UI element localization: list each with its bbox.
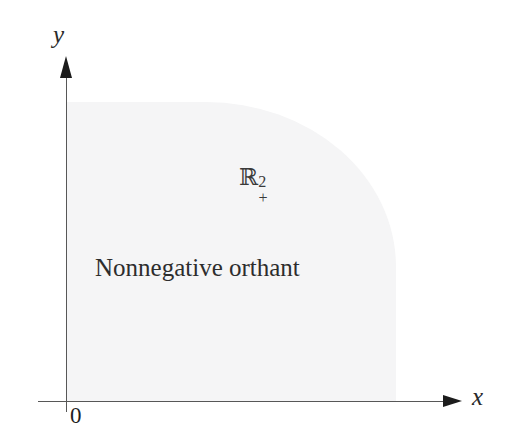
- x-axis-line: [38, 401, 452, 402]
- figure-canvas: y x 0 ℝ2+ Nonnegative orthant: [0, 0, 510, 442]
- origin-label: 0: [70, 404, 82, 427]
- region-symbol-subscript: +: [258, 190, 267, 206]
- x-axis-label: x: [472, 384, 483, 409]
- x-axis-arrowhead-icon: [443, 395, 462, 407]
- nonnegative-orthant-region: [66, 102, 396, 402]
- y-axis-arrowhead-icon: [60, 56, 72, 78]
- blackboard-r-glyph: ℝ: [239, 164, 258, 190]
- region-symbol-superscript: 2: [258, 174, 266, 190]
- y-axis-label: y: [53, 22, 64, 47]
- region-caption: Nonnegative orthant: [95, 255, 300, 280]
- region-symbol: ℝ2+: [239, 166, 272, 189]
- y-axis-line: [66, 72, 67, 412]
